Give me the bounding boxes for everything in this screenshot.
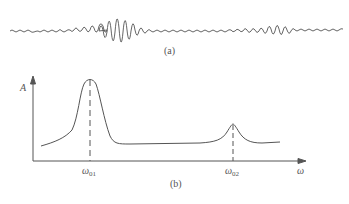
- y-axis-arrow-icon: [31, 76, 36, 84]
- peak-1-label-main: ω: [82, 165, 89, 176]
- panel-a-label: (a): [164, 46, 175, 56]
- spectrum-curve: [41, 80, 280, 147]
- waveform-signal: [10, 19, 343, 42]
- peak-2-label-main: ω: [225, 165, 232, 176]
- panel-b-label: (b): [170, 179, 182, 189]
- peak-1-label: ω01: [82, 166, 96, 178]
- x-axis-label: ω: [297, 166, 304, 176]
- x-axis-arrow-icon: [298, 159, 306, 164]
- axes: [31, 76, 307, 164]
- peak-2-label: ω02: [225, 166, 239, 178]
- peak-2-label-sub: 02: [232, 170, 239, 178]
- peak-1-label-sub: 01: [89, 170, 96, 178]
- y-axis-label: A: [20, 83, 26, 93]
